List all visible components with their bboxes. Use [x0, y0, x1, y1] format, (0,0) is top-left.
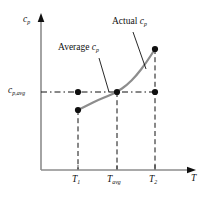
- marker-cp-at-T1-curve: [75, 107, 81, 113]
- annotation-average-cp-subscript: p: [96, 47, 99, 53]
- y-axis-label: cp: [23, 15, 30, 25]
- marker-cpavg-at-T2: [152, 89, 158, 95]
- x-tick-label-T2: T2: [149, 175, 157, 185]
- y-tick-label-subscript: p,avg: [12, 90, 25, 96]
- marker-cp-at-T2-curve: [152, 46, 158, 52]
- y-axis-label-subscript: p: [27, 19, 30, 25]
- leader-line-actual-cp: [133, 32, 146, 69]
- y-tick-label-cp-avg: cp,avg: [8, 86, 25, 96]
- annotation-average-cp-text: Average: [58, 42, 92, 52]
- annotation-leader-lines: [99, 32, 146, 92]
- annotation-average-cp: Average cp: [58, 43, 99, 53]
- annotation-actual-cp-text: Actual: [112, 16, 140, 26]
- x-axis-label: T: [191, 174, 196, 184]
- x-tick-label-T1-subscript: 1: [77, 179, 80, 185]
- annotation-actual-cp-subscript: p: [144, 21, 147, 27]
- marker-cpavg-at-Tavg: [114, 89, 120, 95]
- x-tick-label-Tavg-subscript: avg: [112, 179, 120, 185]
- y-axis-arrowhead: [38, 13, 45, 22]
- x-axis-label-main: T: [191, 173, 196, 183]
- marker-cpavg-at-T1: [75, 89, 81, 95]
- x-tick-label-T1: T1: [72, 175, 80, 185]
- figure-canvas: [0, 0, 211, 198]
- x-tick-label-T2-subscript: 2: [154, 179, 157, 185]
- specific-heat-figure: cp T cp,avg T1 Tavg T2 Actual cp Average…: [0, 0, 211, 198]
- leader-line-average-cp: [99, 58, 109, 92]
- annotation-actual-cp: Actual cp: [112, 17, 147, 27]
- x-tick-label-Tavg: Tavg: [107, 175, 121, 185]
